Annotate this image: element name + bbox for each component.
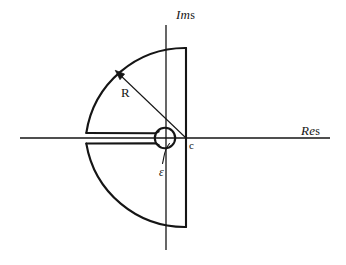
real-axis-label-italic: Re	[301, 123, 315, 138]
branch-cut-slot-upper	[86, 132, 158, 134]
radius-indicator-line	[119, 74, 187, 139]
imaginary-axis-label-italic: Im	[176, 7, 190, 22]
large-arc-lower	[86, 144, 186, 228]
branch-cut-slot-lower	[86, 143, 158, 145]
real-axis-label: Res	[301, 124, 320, 137]
contour-diagram-figure: Ims Res R c ε	[0, 0, 346, 265]
epsilon-label: ε	[159, 166, 164, 178]
radius-label: R	[121, 86, 130, 99]
imaginary-axis-label: Ims	[176, 8, 195, 21]
abscissa-label: c	[189, 140, 194, 151]
contour-diagram-canvas	[0, 0, 346, 265]
imaginary-axis-label-variable: s	[190, 8, 195, 22]
real-axis-label-variable: s	[315, 124, 320, 138]
